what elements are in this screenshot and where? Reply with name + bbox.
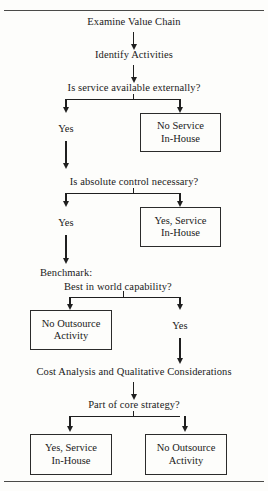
box-final-no-outsource-line2: Activity: [157, 455, 216, 468]
box-yes-service-in-house-line1: Yes, Service: [154, 215, 206, 228]
label-yes-control: Yes: [58, 217, 74, 229]
box-final-yes-service-line2: In-House: [45, 455, 97, 468]
box-yes-service-in-house: Yes, Service In-House: [140, 207, 221, 247]
box-no-outsource-activity: No Outsource Activity: [30, 310, 112, 350]
arrowhead-yes-external: [63, 107, 69, 113]
box-yes-service-in-house-line2: In-House: [154, 227, 206, 240]
arrowhead-benchmark: [63, 258, 69, 264]
arrowhead-final-no-outsource: [182, 426, 188, 432]
fork3-bar: [70, 297, 180, 298]
box-no-outsource-activity-line2: Activity: [42, 330, 101, 343]
step-benchmark-question: Best in world capability?: [64, 281, 172, 293]
box-final-no-outsource-activity: No Outsource Activity: [145, 434, 227, 475]
box-final-yes-service-line1: Yes, Service: [45, 442, 97, 455]
box-final-yes-service-in-house: Yes, Service In-House: [30, 434, 112, 475]
step-examine-value-chain: Examine Value Chain: [87, 16, 180, 28]
label-yes-benchmark: Yes: [172, 320, 188, 332]
box-no-service-in-house-line1: No Service: [157, 120, 204, 133]
decision-absolute-control-necessary: Is absolute control necessary?: [70, 176, 199, 188]
top-rule: [4, 10, 264, 11]
connector-yes-control-to-benchmark: [65, 235, 66, 259]
box-no-service-in-house: No Service In-House: [140, 113, 221, 152]
connector-yes-external-to-control: [65, 141, 66, 164]
connector-yes-benchmark-to-cost: [179, 338, 180, 359]
fork2-bar: [66, 193, 180, 194]
arrowhead-final-yes-service: [67, 426, 73, 432]
step-identify-activities: Identify Activities: [95, 49, 173, 61]
box-no-service-in-house-line2: In-House: [157, 133, 204, 146]
bottom-rule: [4, 481, 264, 482]
outsourcing-decision-flowchart: Examine Value Chain Identify Activities …: [0, 0, 268, 491]
decision-service-available-externally: Is service available externally?: [68, 82, 201, 94]
arrowhead-yes-control: [63, 201, 69, 207]
box-final-no-outsource-line1: No Outsource: [157, 442, 216, 455]
arrowhead-control: [63, 163, 69, 169]
box-no-outsource-activity-line1: No Outsource: [42, 318, 101, 331]
step-benchmark-label: Benchmark:: [40, 267, 92, 279]
decision-part-of-core-strategy: Part of core strategy?: [88, 399, 180, 411]
label-yes-external: Yes: [58, 123, 74, 135]
fork4-bar: [70, 416, 180, 417]
arrowhead-yes-benchmark: [177, 304, 183, 310]
fork1-bar: [66, 99, 180, 100]
step-cost-analysis: Cost Analysis and Qualitative Considerat…: [36, 366, 231, 378]
arrowhead-cost-analysis: [177, 358, 183, 364]
